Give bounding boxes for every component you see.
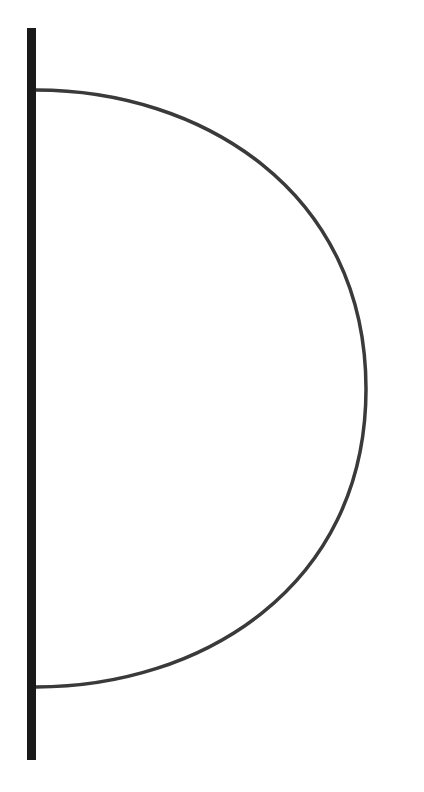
background-rect [0, 0, 424, 792]
figure-canvas [0, 0, 424, 792]
vertical-bar [27, 28, 36, 760]
shape-diagram-svg [0, 0, 424, 792]
